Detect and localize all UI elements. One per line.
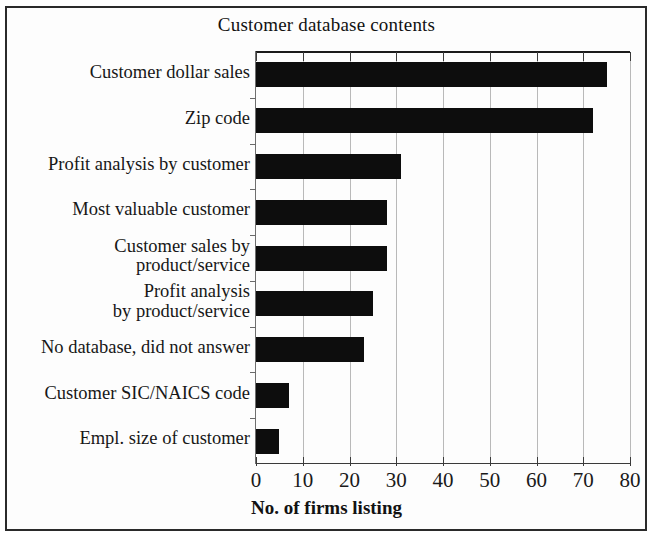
category-label: Customer SIC/NAICS code (10, 384, 250, 404)
y-axis-tick (250, 98, 256, 99)
x-axis-tick (490, 457, 491, 466)
x-axis-tick-label: 80 (607, 468, 653, 493)
bar (256, 108, 593, 133)
x-axis-tick-label: 10 (280, 468, 326, 493)
bar (256, 429, 279, 454)
bar (256, 337, 364, 362)
x-axis-tick-label: 30 (373, 468, 419, 493)
category-label: Most valuable customer (10, 200, 250, 220)
x-axis-tick-top (630, 52, 631, 61)
gridline (630, 52, 631, 464)
x-axis-tick-label: 70 (560, 468, 606, 493)
x-axis-tick-label: 60 (514, 468, 560, 493)
category-label: Customer sales by product/service (10, 237, 250, 276)
category-label: Customer dollar sales (10, 63, 250, 83)
category-label: Empl. size of customer (10, 429, 250, 449)
y-axis-tick (250, 189, 256, 190)
y-axis-tick (250, 418, 256, 419)
bar (256, 62, 607, 87)
y-axis-tick (250, 144, 256, 145)
x-axis-tick-top (256, 52, 257, 61)
bar (256, 246, 387, 271)
bar (256, 154, 401, 179)
x-axis-tick-label: 40 (420, 468, 466, 493)
x-axis-tick (256, 457, 257, 466)
x-axis-tick (583, 457, 584, 466)
y-axis-tick (250, 372, 256, 373)
bar (256, 200, 387, 225)
category-label: Profit analysis by customer (10, 155, 250, 175)
category-label: Profit analysis by product/service (10, 282, 250, 321)
y-axis-tick (250, 235, 256, 236)
bar (256, 291, 373, 316)
x-axis-tick (350, 457, 351, 466)
category-label: No database, did not answer (10, 338, 250, 358)
y-axis-tick (250, 281, 256, 282)
x-axis-tick (443, 457, 444, 466)
x-axis-tick-top (490, 52, 491, 61)
x-axis-tick-top (537, 52, 538, 61)
x-axis-tick-top (396, 52, 397, 61)
x-axis-tick (396, 457, 397, 466)
chart-title: Customer database contents (0, 14, 653, 36)
x-axis-tick-top (303, 52, 304, 61)
x-axis-tick-label: 50 (467, 468, 513, 493)
x-axis-tick (303, 457, 304, 466)
x-axis-tick (630, 457, 631, 466)
x-axis-tick-top (443, 52, 444, 61)
category-label: Zip code (10, 109, 250, 129)
x-axis-tick-top (350, 52, 351, 61)
x-axis-tick (537, 457, 538, 466)
bar (256, 383, 289, 408)
plot-area (256, 52, 630, 464)
x-axis-tick-label: 0 (233, 468, 279, 493)
xaxis-title: No. of firms listing (0, 497, 653, 519)
y-axis-tick (250, 327, 256, 328)
x-axis-tick-top (583, 52, 584, 61)
x-axis-tick-label: 20 (327, 468, 373, 493)
